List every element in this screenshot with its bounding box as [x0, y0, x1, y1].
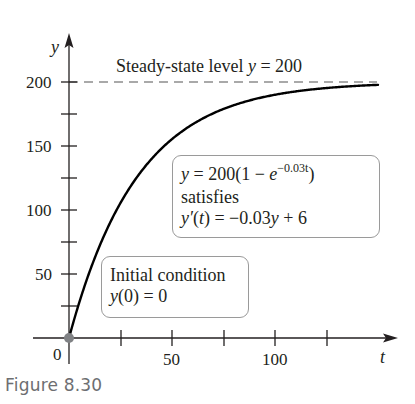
formula-line-solution: y = 200(1 − e−0.03t) — [181, 164, 372, 187]
steady-state-suffix: = 200 — [256, 56, 302, 76]
initial-condition-title: Initial condition — [110, 265, 241, 286]
y-tick-label-150: 150 — [26, 138, 52, 155]
y-tick-label-100: 100 — [26, 202, 52, 219]
y-axis-label: y — [51, 38, 59, 56]
initial-condition-box: Initial condition y(0) = 0 — [101, 256, 249, 318]
t-axis-label: t — [380, 348, 385, 366]
figure-caption: Figure 8.30 — [5, 375, 102, 395]
steady-state-prefix: Steady-state level — [116, 56, 248, 76]
x-tick-label-50: 50 — [163, 351, 180, 368]
steady-state-label: Steady-state level y = 200 — [116, 57, 302, 75]
formula-line-ode: y′(t) = −0.03y + 6 — [181, 208, 372, 229]
initial-condition-value: y(0) = 0 — [110, 286, 241, 307]
y-tick-label-200: 200 — [26, 74, 52, 91]
formula-annotation-box: y = 200(1 − e−0.03t) satisfies y′(t) = −… — [172, 155, 380, 238]
steady-state-var: y — [248, 56, 256, 76]
origin-point — [64, 333, 74, 343]
origin-label: 0 — [53, 346, 62, 363]
x-tick-label-100: 100 — [262, 351, 288, 368]
y-tick-label-50: 50 — [35, 266, 52, 283]
formula-line-satisfies: satisfies — [181, 187, 372, 208]
